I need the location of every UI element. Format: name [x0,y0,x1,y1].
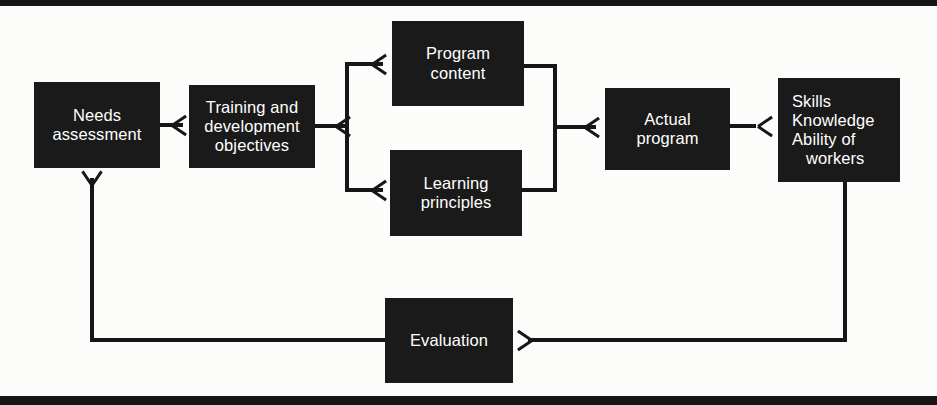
node-actual-program[interactable]: Actual program [605,88,730,170]
node-skills-line-1: Skills [792,92,896,111]
node-actual-program-line-1: Actual [609,110,726,129]
bottom-rule [0,396,937,405]
node-skills-knowledge-ability[interactable]: Skills Knowledge Ability of workers [778,78,900,182]
top-rule [0,0,937,6]
node-training-line-2: development [193,117,311,136]
node-learning-principles-line-1: Learning [394,174,518,193]
node-needs-assessment-line-1: Needs [38,106,156,125]
node-skills-line-3: Ability of [792,130,896,149]
node-learning-principles-line-2: principles [394,193,518,212]
node-training-line-3: objectives [193,136,311,155]
node-skills-line-4: workers [792,149,896,168]
node-needs-assessment-line-2: assessment [38,125,156,144]
node-evaluation-line-1: Evaluation [389,331,509,350]
connector-evaluation-up [90,178,94,340]
node-program-content-line-2: content [396,64,520,83]
node-learning-principles[interactable]: Learning principles [390,150,522,236]
node-actual-program-line-2: program [609,129,726,148]
connector-learning-principles-to-merge [522,188,557,192]
node-training-line-1: Training and [193,98,311,117]
node-training-development-objectives[interactable]: Training and development objectives [189,85,315,168]
connector-training-to-split [315,124,347,128]
connector-skills-to-evaluation [528,338,847,342]
node-evaluation[interactable]: Evaluation [385,298,513,383]
node-skills-line-2: Knowledge [792,111,896,130]
node-needs-assessment[interactable]: Needs assessment [34,82,160,168]
connector-split-trunk [345,62,349,192]
connector-evaluation-left [90,338,385,342]
node-program-content[interactable]: Program content [392,21,524,106]
connector-skills-down [843,182,847,342]
connector-actual-program-to-skills [730,124,756,128]
node-program-content-line-1: Program [396,44,520,63]
flowchart-figure: Needs assessment Training and developmen… [0,0,937,405]
